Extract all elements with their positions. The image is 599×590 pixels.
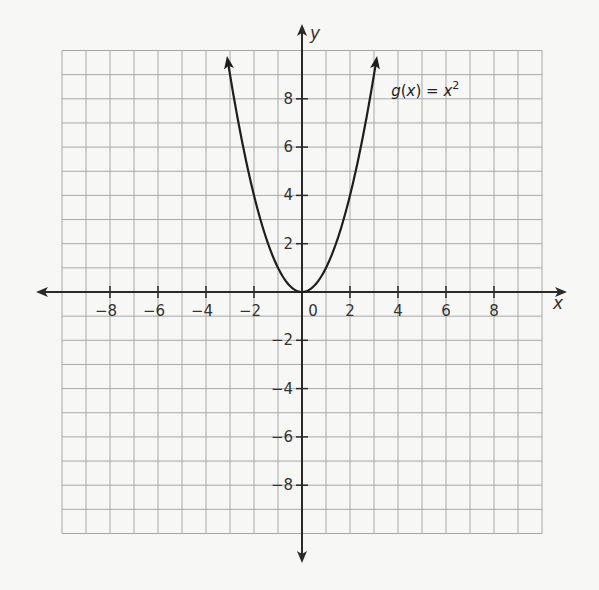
y-tick-label: −6 [271, 428, 293, 446]
function-var: x [442, 82, 452, 100]
function-exponent: 2 [452, 79, 459, 92]
chart: −8−6−4−202468−8−6−4−22468 x y g(x) = x2 [0, 0, 599, 590]
x-tick-label: −6 [143, 302, 165, 320]
y-tick-label: −2 [271, 331, 293, 349]
y-tick-label: −8 [271, 476, 293, 494]
function-label: g(x) = x2 [391, 79, 459, 100]
x-tick-label: 0 [308, 302, 318, 320]
x-tick-label: −8 [95, 302, 117, 320]
x-tick-label: 2 [345, 302, 355, 320]
function-arg: x [406, 82, 416, 100]
x-tick-label: −4 [191, 302, 213, 320]
y-tick-label: 4 [283, 186, 293, 204]
axes [36, 24, 567, 563]
coordinate-plane: −8−6−4−202468−8−6−4−22468 x y g(x) = x2 [0, 0, 599, 590]
function-equals: = [421, 82, 443, 100]
y-tick-label: 8 [283, 90, 293, 108]
x-tick-label: 4 [393, 302, 403, 320]
function-name: g [391, 82, 401, 100]
x-tick-label: 8 [489, 302, 499, 320]
y-tick-label: 2 [283, 235, 293, 253]
y-tick-label: 6 [283, 138, 293, 156]
y-axis-label: y [309, 23, 321, 43]
x-tick-label: −2 [239, 302, 261, 320]
y-tick-label: −4 [271, 380, 293, 398]
x-axis-label: x [552, 293, 564, 313]
x-tick-label: 6 [441, 302, 451, 320]
